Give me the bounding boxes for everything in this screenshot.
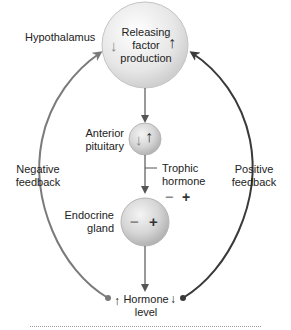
positive-feedback-label: Positive feedback [222,163,286,189]
plus-icon: + [149,215,158,229]
trophic-hormone-label: Trophic hormone [162,162,205,188]
increase-arrow-icon: ↑ [145,130,153,144]
negative-feedback-origin-dot [105,295,111,301]
label-line: feedback [222,176,286,189]
endocrine-gland-label: Endocrine gland [58,209,114,235]
label-line: Hormone [118,293,174,306]
label-line: feedback [6,176,70,189]
hormone-level-label: Hormone level [118,293,174,319]
hypothalamus-label: Hypothalamus [25,31,95,44]
decrease-arrow-icon: ↓ [110,39,118,53]
label-line: pituitary [68,140,124,153]
plus-icon: + [182,190,190,204]
decrease-arrow-icon: ↓ [170,292,176,306]
label-line: level [118,306,174,319]
increase-arrow-icon: ↑ [168,36,176,50]
label-line: Positive [222,163,286,176]
label-line: hormone [162,175,205,188]
label-line: gland [58,222,114,235]
negative-feedback-label: Negative feedback [6,163,70,189]
label-line: Negative [6,163,70,176]
cropped-text-trace [30,326,261,329]
positive-feedback-origin-dot [180,295,186,301]
minus-icon: − [130,215,139,229]
label-line: Endocrine [58,209,114,222]
minus-icon: − [165,190,173,204]
decrease-arrow-icon: ↓ [135,133,143,147]
node-text-line: production [112,52,180,65]
endocrine-gland-node [121,198,169,246]
increase-arrow-icon: ↑ [114,294,120,308]
label-line: Anterior [68,127,124,140]
cropped-caption-remnant [0,322,291,330]
anterior-pituitary-label: Anterior pituitary [68,127,124,153]
label-line: Trophic [162,162,205,175]
